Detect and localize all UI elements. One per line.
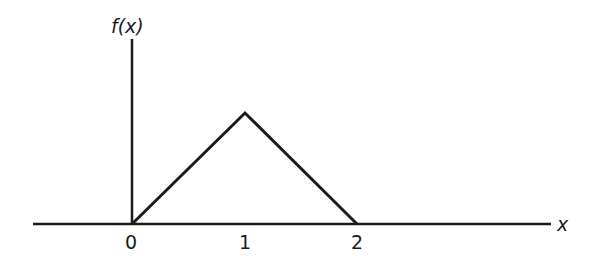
tick-label-2: 2 bbox=[351, 231, 363, 253]
tick-label-0: 0 bbox=[125, 231, 137, 253]
tick-label-1: 1 bbox=[239, 231, 251, 253]
diagram-canvas: f(x) x 0 1 2 bbox=[0, 0, 596, 264]
triangle-function-plot: f(x) x 0 1 2 bbox=[0, 0, 596, 264]
y-axis-label: f(x) bbox=[111, 15, 144, 37]
x-axis-label: x bbox=[556, 213, 569, 235]
triangle-function-curve bbox=[132, 113, 357, 224]
